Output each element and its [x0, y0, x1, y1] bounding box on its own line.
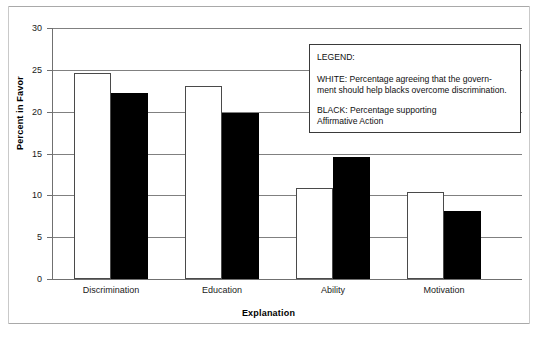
gridline-30 — [53, 28, 522, 29]
legend-entry-black-line2: Affirmative Action — [317, 116, 514, 128]
y-tick-mark-0 — [47, 279, 53, 280]
y-tick-label-5: 5 — [20, 233, 42, 242]
y-tick-label-30: 30 — [20, 24, 42, 33]
legend-entry-black-line1: BLACK: Percentage supporting — [317, 105, 514, 117]
figure-frame-right — [529, 6, 530, 324]
bar-motivation-black — [444, 211, 481, 279]
bar-discrimination-black — [111, 93, 148, 279]
x-axis-title: Explanation — [0, 308, 537, 318]
x-axis-line — [53, 279, 522, 280]
bar-ability-black — [333, 157, 370, 279]
bar-chart-figure: 051015202530 Percent in Favor Explanatio… — [0, 0, 537, 337]
legend-box: LEGEND: WHITE: Percentage agreeing that … — [309, 44, 521, 133]
bar-discrimination-white — [74, 73, 111, 279]
bar-education-black — [222, 113, 259, 279]
legend-title: LEGEND: — [317, 52, 514, 64]
bar-motivation-white — [407, 192, 444, 279]
figure-frame-top — [8, 6, 529, 7]
y-tick-label-10: 10 — [20, 191, 42, 200]
y-axis-title: Percent in Favor — [15, 53, 25, 173]
legend-entry-white: WHITE: Percentage agreeing that the gove… — [317, 74, 514, 97]
x-category-label-motivation: Motivation — [377, 285, 511, 295]
legend-entry-black: BLACK: Percentage supporting Affirmative… — [317, 105, 514, 128]
figure-frame-left — [8, 6, 9, 324]
legend-entry-white-line2: ment should help blacks overcome discrim… — [317, 85, 514, 97]
bar-ability-white — [296, 188, 333, 279]
y-tick-label-0: 0 — [20, 275, 42, 284]
legend-entry-white-line1: WHITE: Percentage agreeing that the gove… — [317, 74, 514, 86]
bar-education-white — [185, 86, 222, 279]
figure-frame-bottom — [8, 323, 529, 324]
